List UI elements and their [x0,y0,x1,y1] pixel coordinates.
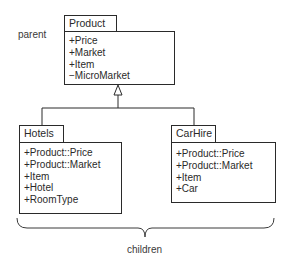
product-attribute: +Market [69,47,174,59]
generalization-arrow-icon [114,85,122,95]
hotels-attribute: +Item [24,171,121,183]
hotels-attribute: +RoomType [24,194,121,206]
carhire-attribute: +Item [176,172,275,184]
children-annotation: children [127,244,162,255]
hotels-attribute: +Hotel [24,182,121,194]
product-attribute: +Item [69,59,174,71]
carhire-attribute: +Product::Market [176,160,275,172]
parent-annotation: parent [18,29,46,40]
hotels-class-name: Hotels [19,125,64,143]
hotels-class-box: +Product::Price +Product::Market +Item +… [19,142,122,214]
product-class-name: Product [64,15,117,32]
hotels-attribute: +Product::Price [24,147,121,159]
hotels-attribute: +Product::Market [24,159,121,171]
children-brace-icon [17,218,274,237]
product-class-box: +Price +Market +Item −MicroMarket [64,31,175,85]
carhire-attribute: +Car [176,183,275,195]
product-attribute: −MicroMarket [69,70,174,82]
carhire-class-box: +Product::Price +Product::Market +Item +… [171,142,276,203]
carhire-attribute: +Product::Price [176,148,275,160]
product-attribute: +Price [69,35,174,47]
carhire-class-name: CarHire [171,125,216,143]
